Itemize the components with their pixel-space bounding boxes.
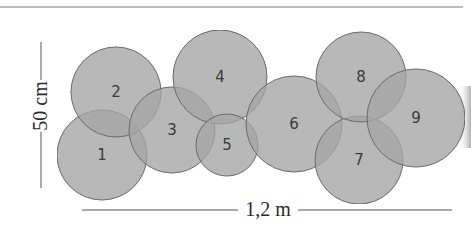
circle-label-4: 4 [215,68,225,86]
height-dimension: 50 cm [29,42,51,188]
circles-group [57,30,465,204]
circle-label-1: 1 [97,146,107,164]
circle-label-2: 2 [111,83,121,101]
circle-layout-diagram: 123456789 50 cm 1,2 m [0,0,471,226]
circle-label-3: 3 [167,121,177,139]
circle-label-8: 8 [356,68,366,86]
circle-label-9: 9 [411,109,421,127]
circle-label-7: 7 [354,151,364,169]
width-dimension-label: 1,2 m [245,198,291,220]
circle-label-6: 6 [289,115,299,133]
width-dimension: 1,2 m [82,198,452,220]
height-dimension-label: 50 cm [29,81,51,131]
circle-label-5: 5 [222,136,232,154]
